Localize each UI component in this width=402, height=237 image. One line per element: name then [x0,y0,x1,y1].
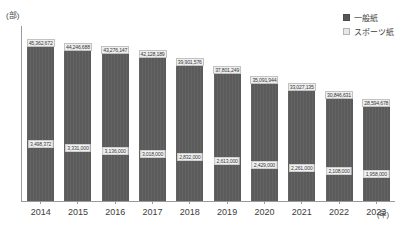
x-axis-labels: 2014201520162017201820192020202120222023 [22,207,395,217]
x-axis-label-2017: 2017 [139,207,166,217]
bar-total-value-label: 42,128,189 [139,50,167,58]
x-axis-tick [139,201,166,205]
x-axis-tick [214,201,241,205]
x-axis-tick-mark [264,201,265,204]
x-axis-tick-mark [376,201,377,204]
x-axis-ticks [22,201,395,205]
bar-column[interactable]: 44,246,6883,331,000 [64,26,91,201]
x-axis-tick-mark [227,201,228,204]
bar-segment-general[interactable] [27,39,54,144]
bar-segment-sports[interactable] [27,144,54,201]
x-axis-tick-mark [301,201,302,204]
x-axis-tick-mark [189,201,190,204]
x-axis-tick [27,201,54,205]
x-axis-label-2021: 2021 [288,207,315,217]
bar-total-value-label: 30,846,631 [325,91,353,99]
x-axis-tick [288,201,315,205]
bar-stack: 30,846,6312,108,000 [326,91,353,201]
bar-segment-general[interactable] [64,43,91,148]
bar-total-value-label: 45,362,672 [27,39,55,47]
bar-total-value-label: 37,801,249 [213,66,241,74]
x-axis-label-2014: 2014 [27,207,54,217]
y-axis-unit-caption: (部) [6,9,19,20]
x-axis-tick [363,201,390,205]
bar-stack: 37,801,2492,613,000 [214,66,241,201]
bar-stack: 42,128,1893,018,000 [139,50,166,201]
bar-segment-general[interactable] [363,99,390,174]
bar-segment-general[interactable] [139,50,166,154]
bar-sports-value-label: 1,958,000 [364,170,389,178]
legend-swatch-general-icon [343,14,350,21]
x-axis-tick-mark [152,201,153,204]
bar-segment-sports[interactable] [251,165,278,201]
x-axis-tick-mark [77,201,78,204]
x-axis-label-2015: 2015 [64,207,91,217]
bar-segment-sports[interactable] [363,174,390,201]
bar-total-value-label: 35,091,944 [250,76,278,84]
bar-stack: 43,276,1473,136,000 [102,46,129,201]
bar-column[interactable]: 37,801,2492,613,000 [214,26,241,201]
bar-column[interactable]: 42,128,1893,018,000 [139,26,166,201]
bar-stack: 28,594,6781,958,000 [363,99,390,201]
bar-stack: 44,246,6883,331,000 [64,43,91,201]
bar-sports-value-label: 3,331,000 [65,144,90,152]
x-axis-label-2018: 2018 [176,207,203,217]
x-axis-label-2020: 2020 [251,207,278,217]
x-axis-tick-mark [339,201,340,204]
bar-stack: 35,091,9442,429,000 [251,76,278,201]
bar-segment-sports[interactable] [176,157,203,201]
bar-sports-value-label: 3,136,000 [103,147,128,155]
bar-sports-value-label: 2,261,000 [289,164,314,172]
bar-total-value-label: 44,246,688 [64,43,92,51]
bar-total-value-label: 28,594,678 [362,99,390,107]
bar-column[interactable]: 35,091,9442,429,000 [251,26,278,201]
bar-segment-general[interactable] [288,83,315,168]
bar-sports-value-label: 3,018,000 [140,150,165,158]
bar-column[interactable]: 33,027,1352,261,000 [288,26,315,201]
bar-stack: 33,027,1352,261,000 [288,83,315,201]
x-axis-tick [176,201,203,205]
bar-sports-value-label: 2,429,000 [252,161,277,169]
bar-column[interactable]: 28,594,6781,958,000 [363,26,390,201]
x-axis-tick [326,201,353,205]
bar-segment-general[interactable] [176,58,203,157]
bar-stack: 39,901,5762,832,000 [176,58,203,201]
bar-segment-general[interactable] [214,66,241,161]
bar-segment-sports[interactable] [139,154,166,201]
bar-column[interactable]: 39,901,5762,832,000 [176,26,203,201]
x-axis-tick [251,201,278,205]
plot-area: 45,362,6723,498,37244,246,6883,331,00043… [22,26,395,201]
x-axis-tick-mark [115,201,116,204]
bar-segment-sports[interactable] [214,161,241,201]
x-axis-tick [64,201,91,205]
bar-total-value-label: 39,901,576 [176,58,204,66]
bar-total-value-label: 43,276,147 [101,46,129,54]
bar-stack: 45,362,6723,498,372 [27,39,54,201]
bar-segment-general[interactable] [251,76,278,165]
x-axis-tick [102,201,129,205]
legend-label-general: 一般紙 [354,12,378,23]
bar-sports-value-label: 3,498,372 [28,140,53,148]
bar-sports-value-label: 2,613,000 [214,157,239,165]
bar-total-value-label: 33,027,135 [288,83,316,91]
bar-segment-general[interactable] [102,46,129,151]
bar-segment-sports[interactable] [288,168,315,201]
x-axis-label-2022: 2022 [326,207,353,217]
bar-column[interactable]: 45,362,6723,498,372 [27,26,54,201]
x-axis-tick-mark [40,201,41,204]
bar-segment-sports[interactable] [102,151,129,201]
bar-column[interactable]: 43,276,1473,136,000 [102,26,129,201]
bar-segment-sports[interactable] [326,171,353,201]
bar-segment-sports[interactable] [64,148,91,201]
x-axis-unit-caption: (年) [377,208,389,219]
bar-sports-value-label: 2,832,000 [177,153,202,161]
x-axis-label-2016: 2016 [102,207,129,217]
x-axis-label-2019: 2019 [214,207,241,217]
bar-segment-general[interactable] [326,91,353,171]
bar-sports-value-label: 2,108,000 [326,167,351,175]
bar-column[interactable]: 30,846,6312,108,000 [326,26,353,201]
legend-item-general: 一般紙 [343,12,394,23]
newspaper-circulation-chart: (部) 一般紙 スポーツ紙 45,362,6723,498,37244,246,… [0,0,402,237]
